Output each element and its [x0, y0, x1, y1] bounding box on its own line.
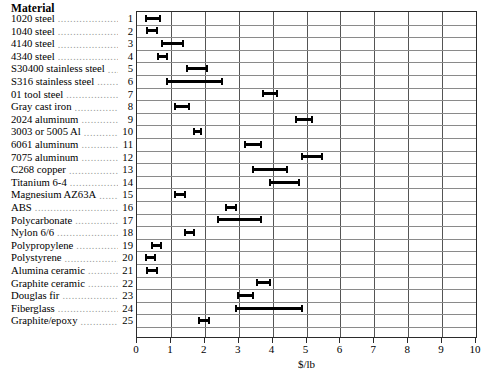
- material-index: 12: [119, 151, 136, 164]
- material-name: 3003 or 5005 Al: [11, 125, 83, 138]
- x-tick-label: 10: [463, 343, 487, 355]
- range-cap-high: [321, 153, 323, 160]
- material-label-row: Polycarbonate...........................…: [11, 214, 136, 227]
- material-index: 11: [119, 138, 136, 151]
- material-label-row: 6061 aluminum...........................…: [11, 138, 136, 151]
- material-label-row: Polystyrene.............................…: [11, 251, 136, 264]
- range-cap-low: [235, 305, 237, 312]
- range-cap-low: [166, 78, 168, 85]
- gridline-horizontal: [137, 176, 476, 177]
- material-name: 01 tool steel: [11, 88, 65, 101]
- material-index: 23: [119, 289, 136, 302]
- gridline-horizontal: [137, 251, 476, 252]
- material-index: 18: [119, 226, 136, 239]
- x-tick-label: 3: [226, 343, 250, 355]
- range-cap-low: [269, 179, 271, 186]
- leader-dots: ........................................: [88, 277, 118, 289]
- range-cap-high: [286, 166, 288, 173]
- material-label-row: 7075 aluminum...........................…: [11, 151, 136, 164]
- leader-dots: ........................................: [76, 239, 118, 251]
- material-label-row: Alumina ceramic.........................…: [11, 264, 136, 277]
- leader-dots: ........................................: [108, 63, 118, 75]
- material-name: C268 copper: [11, 163, 68, 176]
- range-cap-high: [156, 267, 158, 274]
- leader-dots: ........................................: [70, 176, 118, 188]
- range-bar: [252, 168, 288, 171]
- material-name: 1040 steel: [11, 25, 57, 38]
- range-cap-high: [298, 179, 300, 186]
- range-cap-low: [301, 153, 303, 160]
- range-cap-low: [146, 267, 148, 274]
- gridline-horizontal: [137, 302, 476, 303]
- material-name: 7075 aluminum: [11, 151, 80, 164]
- range-cap-low: [145, 15, 147, 22]
- leader-dots: ........................................: [75, 101, 118, 113]
- material-label-row: 3003 or 5005 Al.........................…: [11, 125, 136, 138]
- material-index: 15: [119, 188, 136, 201]
- material-label-row: Gray cast iron..........................…: [11, 100, 136, 113]
- material-name: S30400 stainless steel: [11, 62, 107, 75]
- gridline-horizontal: [137, 151, 476, 152]
- range-bar: [301, 155, 323, 158]
- leader-dots: ........................................: [58, 302, 118, 314]
- gridline-horizontal: [137, 125, 476, 126]
- material-label-row: Magnesium AZ63A.........................…: [11, 188, 136, 201]
- x-tick-label: 7: [361, 343, 385, 355]
- material-name: Polycarbonate: [11, 214, 74, 227]
- range-cap-high: [166, 53, 168, 60]
- gridline-horizontal: [137, 163, 476, 164]
- material-index: 25: [119, 314, 136, 327]
- material-index: 9: [119, 113, 136, 126]
- material-label-row: 01 tool steel...........................…: [11, 88, 136, 101]
- material-index: 24: [119, 302, 136, 315]
- range-cap-high: [160, 242, 162, 249]
- leader-dots: ........................................: [58, 50, 118, 62]
- range-cap-high: [260, 216, 262, 223]
- x-tick-label: 0: [124, 343, 148, 355]
- range-cap-high: [156, 27, 158, 34]
- gridline-horizontal: [137, 314, 476, 315]
- material-index: 19: [119, 239, 136, 252]
- gridline-horizontal: [137, 113, 476, 114]
- range-cap-high: [188, 103, 190, 110]
- x-tick-label: 8: [395, 343, 419, 355]
- material-name: Magnesium AZ63A: [11, 188, 98, 201]
- range-cap-high: [200, 128, 202, 135]
- range-cap-high: [269, 279, 271, 286]
- range-cap-high: [252, 292, 254, 299]
- gridline-horizontal: [137, 25, 476, 26]
- gridline-horizontal: [137, 264, 476, 265]
- material-label-row: Titanium 6-4............................…: [11, 176, 136, 189]
- gridline-horizontal: [137, 62, 476, 63]
- leader-dots: ........................................: [99, 189, 118, 201]
- range-cap-high: [184, 191, 186, 198]
- leader-dots: ........................................: [58, 12, 118, 24]
- leader-dots: ........................................: [57, 226, 118, 238]
- range-cap-high: [193, 229, 195, 236]
- x-tick-label: 2: [192, 343, 216, 355]
- gridline-horizontal: [137, 226, 476, 227]
- gridline-horizontal: [137, 75, 476, 76]
- material-label-row: Nylon 6/6...............................…: [11, 226, 136, 239]
- material-name: Gray cast iron: [11, 100, 74, 113]
- gridline-horizontal: [137, 188, 476, 189]
- range-cap-low: [186, 65, 188, 72]
- range-cap-low: [146, 27, 148, 34]
- range-cap-low: [184, 229, 186, 236]
- material-name: Douglas fir: [11, 289, 61, 302]
- leader-dots: ........................................: [35, 201, 118, 213]
- range-bar: [161, 42, 185, 45]
- material-name: 1020 steel: [11, 12, 57, 25]
- material-label-row: C268 copper.............................…: [11, 163, 136, 176]
- material-label-row: Graphite/epoxy..........................…: [11, 314, 136, 327]
- material-label-row: 1040 steel..............................…: [11, 25, 136, 38]
- material-label-row: 1020 steel..............................…: [11, 12, 136, 25]
- material-name: Titanium 6-4: [11, 176, 69, 189]
- gridline-horizontal: [137, 327, 476, 328]
- range-cap-high: [182, 40, 184, 47]
- x-tick-label: 9: [429, 343, 453, 355]
- leader-dots: ........................................: [80, 315, 118, 327]
- material-label-row: Polypropylene...........................…: [11, 239, 136, 252]
- range-cap-low: [295, 116, 297, 123]
- range-cap-low: [217, 216, 219, 223]
